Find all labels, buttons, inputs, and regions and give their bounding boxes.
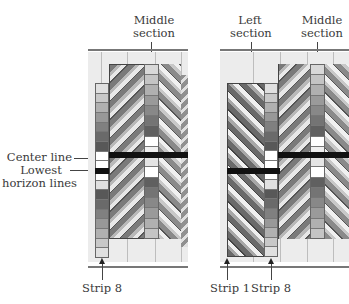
right-strip1-arrow-line: [227, 264, 228, 280]
left-center-line-bar: [109, 152, 181, 158]
left-strip8-label: Strip 8: [82, 282, 122, 295]
left-lowest-horizon-bar: [95, 168, 109, 174]
middle-section-label-right: Middle section: [298, 14, 346, 40]
right-strip8-label: Strip 8: [251, 282, 291, 295]
right-center-line-bar: [278, 152, 349, 158]
right-bottom-border: [220, 266, 349, 268]
left-bottom-border: [88, 266, 188, 268]
label-line: section: [131, 27, 177, 40]
right-top-border: [220, 49, 349, 51]
lowest-horizon-label: Lowest horizon lines: [2, 164, 72, 190]
right-strip1-label: Strip 1: [210, 282, 246, 295]
left-strip8-arrow-line: [102, 264, 103, 280]
label-line: horizon lines: [2, 177, 72, 190]
label-line: section: [230, 27, 270, 40]
left-edge-strip: [181, 75, 188, 247]
right-strip8-arrow-line: [271, 264, 272, 280]
left-center-line-bar-edge: [181, 152, 188, 158]
left-section-label: Left section: [230, 14, 270, 40]
lowest-horizon-arrow-line: [70, 170, 90, 171]
label-line: section: [298, 27, 346, 40]
left-top-border: [88, 49, 188, 51]
middle-section-label-left: Middle section: [131, 14, 177, 40]
right-lowest-horizon-bar: [227, 168, 280, 174]
